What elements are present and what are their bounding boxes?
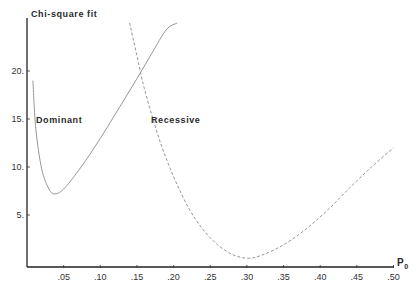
annotation-recessive: Recessive <box>151 115 200 125</box>
x-axis-label: P0 <box>397 257 409 270</box>
y-tick-label: 5. <box>16 210 24 220</box>
recessive-curve <box>130 23 394 258</box>
y-axis-label: Chi-square fit <box>31 9 97 19</box>
x-tick-label: .10 <box>94 272 107 282</box>
x-tick-label: .25 <box>204 272 217 282</box>
x-tick-label: .45 <box>351 272 364 282</box>
x-tick-label: .40 <box>314 272 327 282</box>
x-tick-label: .50 <box>387 272 400 282</box>
y-tick-label: 20. <box>11 66 24 76</box>
x-tick-label: .20 <box>167 272 180 282</box>
dominant-curve <box>33 23 177 194</box>
y-tick-label: 10. <box>11 162 24 172</box>
chi-square-chart: Chi-square fit P0 5.10.15.20. .05.10.15.… <box>0 0 418 288</box>
x-tick-label: .15 <box>131 272 144 282</box>
x-tick-label: .30 <box>241 272 254 282</box>
annotation-dominant: Dominant <box>36 115 82 125</box>
x-tick-label: .05 <box>57 272 70 282</box>
x-tick-label: .35 <box>277 272 290 282</box>
y-tick-label: 15. <box>11 114 24 124</box>
